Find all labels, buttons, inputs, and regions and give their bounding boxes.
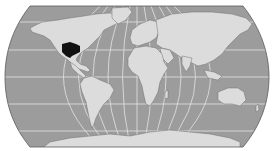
world-map <box>0 0 273 151</box>
